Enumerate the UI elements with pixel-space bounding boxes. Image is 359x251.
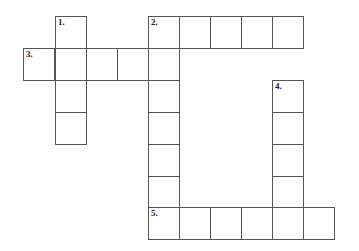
crossword-cell[interactable] <box>55 80 87 113</box>
crossword-cell[interactable]: 2. <box>148 16 180 49</box>
clue-number: 2. <box>151 18 158 27</box>
crossword-cell[interactable] <box>148 112 180 145</box>
crossword-cell[interactable] <box>148 48 180 81</box>
crossword-cell[interactable] <box>272 207 304 240</box>
crossword-cell[interactable] <box>179 207 211 240</box>
crossword-cell[interactable]: 1. <box>55 16 87 49</box>
crossword-cell[interactable] <box>272 112 304 145</box>
crossword-cell[interactable] <box>272 16 304 49</box>
crossword-cell[interactable] <box>148 144 180 177</box>
crossword-cell[interactable] <box>272 176 304 209</box>
crossword-cell[interactable] <box>55 48 87 81</box>
crossword-cell[interactable] <box>241 16 273 49</box>
crossword-cell[interactable]: 3. <box>23 48 55 81</box>
clue-number: 4. <box>275 82 282 91</box>
crossword-cell[interactable] <box>272 144 304 177</box>
crossword-cell[interactable] <box>86 48 118 81</box>
crossword-cell[interactable] <box>148 80 180 113</box>
crossword-cell[interactable] <box>210 207 242 240</box>
clue-number: 1. <box>58 18 65 27</box>
crossword-cell[interactable] <box>148 176 180 209</box>
crossword-cell[interactable] <box>117 48 149 81</box>
crossword-cell[interactable] <box>55 112 87 145</box>
crossword-cell[interactable] <box>210 16 242 49</box>
crossword-cell[interactable] <box>303 207 335 240</box>
crossword-grid: 1.2.3.4.5. <box>0 0 359 251</box>
clue-number: 5. <box>151 209 158 218</box>
crossword-cell[interactable]: 5. <box>148 207 180 240</box>
clue-number: 3. <box>26 50 33 59</box>
crossword-cell[interactable] <box>241 207 273 240</box>
crossword-cell[interactable] <box>179 16 211 49</box>
crossword-cell[interactable]: 4. <box>272 80 304 113</box>
